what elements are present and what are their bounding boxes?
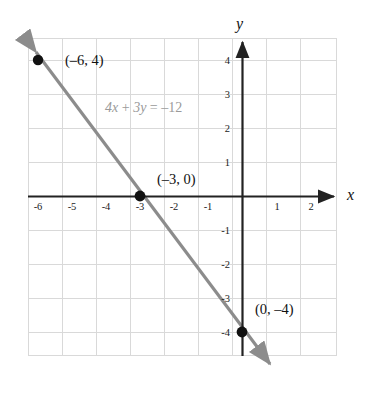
point-label-neg6-4: (–6, 4): [65, 53, 104, 68]
x-tick-label: 2: [308, 202, 313, 213]
y-axis-label: y: [236, 16, 243, 32]
x-tick-label: 1: [274, 202, 279, 213]
point-label-neg3-0: (–3, 0): [157, 172, 196, 187]
x-tick-label: -2: [170, 202, 179, 213]
x-tick-label: -5: [68, 202, 77, 213]
equation-constant: –12: [161, 100, 182, 115]
y-tick-label: -2: [221, 260, 230, 271]
equation-label: 4x + 3y = –12: [105, 101, 182, 115]
equation-term-b: 3y: [133, 100, 146, 115]
x-tick-label: -1: [204, 202, 213, 213]
data-point: [237, 327, 248, 338]
y-tick-label: -4: [221, 328, 230, 339]
x-tick-label: -3: [136, 202, 145, 213]
figure-canvas: y x -6 -5 -4 -3 -2 -1 1 2 4 3 2 1 -1 -2 …: [0, 0, 371, 394]
y-tick-label: -3: [221, 294, 230, 305]
data-point: [33, 55, 43, 65]
x-axis-label: x: [347, 187, 354, 203]
y-tick-label: 3: [225, 90, 230, 101]
point-label-0-neg4: (0, –4): [255, 302, 294, 317]
y-tick-label: 2: [225, 124, 230, 135]
equation-operator-plus: +: [118, 100, 133, 115]
x-tick-label: -6: [34, 202, 43, 213]
y-tick-label: 4: [225, 56, 230, 67]
x-tick-label: -4: [102, 202, 111, 213]
equation-term-a: 4x: [105, 100, 118, 115]
y-tick-label: -1: [221, 226, 230, 237]
coordinate-plane-svg: [0, 0, 371, 394]
data-point: [135, 191, 146, 202]
equation-operator-equals: =: [146, 100, 161, 115]
y-tick-label: 1: [225, 158, 230, 169]
